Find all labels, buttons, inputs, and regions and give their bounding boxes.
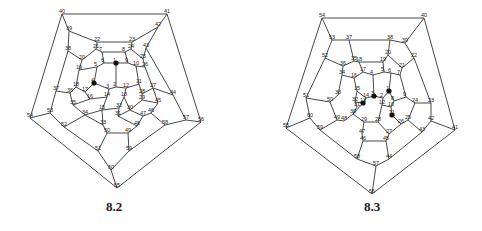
graph-8-3: 1234567891011121314151617181920212223242…	[283, 12, 458, 195]
edge	[129, 125, 165, 151]
vertex-label: 41	[452, 124, 458, 130]
vertex-label: 4	[91, 77, 94, 83]
graph-8-2: 1234567891011121314151617181920212223242…	[27, 8, 204, 189]
edge	[389, 132, 422, 159]
vertex-label: 25	[140, 53, 146, 59]
vertex-label: 12	[123, 82, 129, 88]
vertex-label: 44	[386, 153, 392, 159]
vertex-label: 42	[155, 21, 161, 27]
vertex-label: 14	[363, 92, 369, 98]
vertex-label: 19	[380, 56, 386, 62]
vertex-label: 3	[371, 90, 374, 96]
vertex-label: 48	[134, 120, 140, 126]
vertex-label: 24	[412, 97, 418, 103]
vertex-label: 2	[113, 81, 116, 87]
vertex-label: 60	[307, 112, 313, 118]
vertex-label: 59	[126, 145, 132, 151]
vertex-label: 13	[121, 91, 127, 97]
vertex-label: 52	[322, 52, 328, 58]
vertex-label: 16	[87, 93, 93, 99]
edge	[64, 127, 98, 151]
vertex-label: 29	[139, 94, 145, 100]
vertex-label: 12	[379, 99, 385, 105]
vertex-label: 45	[383, 135, 389, 141]
vertex-label: 17	[360, 66, 366, 72]
vertex-label: 21	[93, 43, 99, 49]
caption-8-3: 8.3	[364, 199, 380, 215]
vertex-label: 59	[317, 124, 323, 130]
vertex-label: 10	[388, 101, 394, 107]
vertex-label: 18	[73, 81, 79, 87]
vertex-label: 57	[183, 114, 189, 120]
edge	[394, 97, 406, 101]
vertex-label: 55	[283, 122, 289, 128]
vertex-label: 10	[133, 60, 139, 66]
edge	[165, 120, 186, 125]
edge	[30, 14, 62, 118]
vertex-label: 38	[65, 45, 71, 51]
vertex-label: 44	[170, 89, 176, 95]
vertex-label: 9	[403, 91, 406, 97]
vertex-label: 53	[329, 34, 335, 40]
vertex-label: 30	[350, 108, 356, 114]
vertex-label: 7	[99, 46, 102, 52]
vertex-label: 27	[150, 82, 156, 88]
edge	[64, 115, 85, 127]
vertex-label: 43	[419, 126, 425, 132]
vertex-label: 30	[127, 104, 133, 110]
edge	[69, 31, 97, 42]
vertex-label: 58	[354, 153, 360, 159]
vertex-label: 25	[405, 114, 411, 120]
vertex-label: 48	[341, 115, 347, 121]
vertex-label: 21	[399, 62, 405, 68]
vertex-label: 5	[381, 66, 384, 72]
vertex-label: 9	[125, 57, 128, 63]
vertex-label: 60	[108, 164, 114, 170]
vertex-label: 46	[360, 135, 366, 141]
edge	[286, 18, 322, 128]
edge	[389, 73, 391, 91]
vertex-label: 14	[104, 91, 110, 97]
vertex-label: 40	[59, 8, 65, 14]
vertex-label: 36	[67, 87, 73, 93]
vertex-label: 26	[398, 118, 404, 124]
edge	[286, 118, 310, 128]
vertex-label: 22	[94, 36, 100, 42]
vertex-label: 47	[140, 110, 146, 116]
vertex-label: 43	[143, 42, 149, 48]
edge	[146, 48, 173, 95]
vertex-label: 1	[386, 85, 389, 91]
vertex-label: 50	[327, 96, 333, 102]
vertex-label: 52	[61, 121, 67, 127]
vertex-label: 46	[148, 107, 154, 113]
vertex-label: 36	[340, 60, 346, 66]
vertex-label: 56	[198, 116, 204, 122]
vertex-label: 57	[373, 160, 379, 166]
vertex-label: 35	[70, 99, 76, 105]
edge	[109, 87, 116, 89]
vertex-label: 22	[411, 52, 417, 58]
vertex-label: 15	[354, 85, 360, 91]
vertex-label: 34	[82, 109, 88, 115]
vertex-label: 47	[359, 128, 365, 134]
caption-8-2: 8.2	[106, 199, 122, 215]
vertex-label: 35	[351, 55, 357, 61]
vertex-label: 28	[375, 116, 381, 122]
edge	[373, 72, 384, 75]
vertex-label: 11	[136, 78, 142, 84]
vertex-label: 1	[113, 57, 116, 63]
vertex-label: 15	[99, 104, 105, 110]
vertex-label: 27	[386, 128, 392, 134]
vertex-label: 20	[385, 49, 391, 55]
vertex-label: 23	[428, 97, 434, 103]
vertex-label: 19	[76, 64, 82, 70]
vertex-label: 49	[334, 114, 340, 120]
vertex-label: 42	[428, 115, 434, 121]
edge	[125, 49, 131, 52]
vertex-label: 45	[155, 97, 161, 103]
figure-canvas: 1234567891011121314151617181920212223242…	[0, 0, 482, 231]
vertex-label: 39	[66, 25, 72, 31]
vertex-label: 3	[106, 83, 109, 89]
vertex-label: 37	[53, 85, 59, 91]
edge	[167, 14, 201, 122]
